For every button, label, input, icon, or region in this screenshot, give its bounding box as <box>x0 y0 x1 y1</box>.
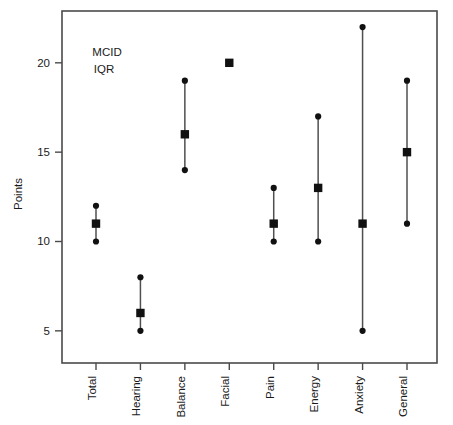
mcid-square-marker <box>92 219 100 227</box>
data-point-group <box>92 203 100 245</box>
y-tick-label: 15 <box>37 146 50 158</box>
x-tick-label: Total <box>86 376 98 400</box>
mcid-square-marker <box>358 219 366 227</box>
y-axis-title: Points <box>12 178 24 210</box>
chart-container: 5101520 Points TotalHearingBalanceFacial… <box>0 0 453 425</box>
mcid-square-marker <box>181 130 189 138</box>
iqr-upper-dot <box>182 78 188 84</box>
x-tick-label: Anxiety <box>353 376 365 414</box>
x-tick-label: Balance <box>175 376 187 418</box>
y-axis: 5101520 <box>37 57 62 337</box>
legend-label-mcid: MCID <box>92 46 121 58</box>
iqr-lower-dot <box>93 238 99 244</box>
mcid-square-marker <box>270 219 278 227</box>
data-point-group <box>136 274 144 334</box>
x-tick-label: Facial <box>219 376 231 407</box>
y-tick-label: 20 <box>37 57 50 69</box>
iqr-lower-dot <box>182 167 188 173</box>
mcid-square-marker <box>314 184 322 192</box>
iqr-upper-dot <box>271 185 277 191</box>
y-tick-label: 5 <box>44 325 50 337</box>
iqr-upper-dot <box>404 78 410 84</box>
x-tick-label: Energy <box>308 376 320 413</box>
mcid-square-marker <box>225 59 233 67</box>
x-tick-label: General <box>397 376 409 417</box>
x-tick-label: Pain <box>264 376 276 399</box>
data-point-group <box>314 113 322 244</box>
x-axis: TotalHearingBalanceFacialPainEnergyAnxie… <box>86 363 409 418</box>
iqr-lower-dot <box>315 238 321 244</box>
data-series-group <box>92 24 411 334</box>
legend-label-iqr: IQR <box>94 63 114 75</box>
data-point-group <box>358 24 366 334</box>
iqr-lower-dot <box>359 328 365 334</box>
iqr-upper-dot <box>359 24 365 30</box>
data-point-group <box>181 78 189 174</box>
y-tick-label: 10 <box>37 235 50 247</box>
mcid-square-marker <box>403 148 411 156</box>
plot-frame <box>62 11 437 363</box>
x-tick-label: Hearing <box>130 376 142 416</box>
iqr-lower-dot <box>271 238 277 244</box>
iqr-upper-dot <box>315 113 321 119</box>
iqr-lower-dot <box>137 328 143 334</box>
mcid-iqr-scatter-chart: 5101520 Points TotalHearingBalanceFacial… <box>0 0 453 425</box>
data-point-group <box>270 185 278 245</box>
iqr-lower-dot <box>404 221 410 227</box>
data-point-group <box>225 59 233 67</box>
iqr-upper-dot <box>93 203 99 209</box>
iqr-upper-dot <box>137 274 143 280</box>
mcid-square-marker <box>136 309 144 317</box>
data-point-group <box>403 78 411 227</box>
